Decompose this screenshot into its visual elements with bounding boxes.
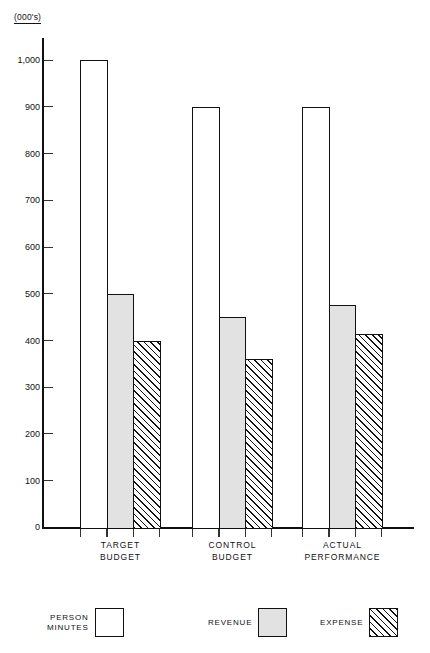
legend-label: EXPENSE bbox=[320, 618, 363, 628]
legend-item-revenue: REVENUE bbox=[208, 608, 287, 637]
x-axis-tick bbox=[355, 529, 356, 537]
legend-item-person-minutes: PERSON MINUTES bbox=[47, 608, 124, 637]
y-axis-tick bbox=[44, 60, 53, 61]
legend-swatch-expense bbox=[369, 608, 398, 637]
x-axis-tick bbox=[218, 529, 219, 537]
y-axis-tick-label: 900 bbox=[6, 102, 40, 112]
y-axis-tick bbox=[44, 106, 53, 107]
y-axis-tick bbox=[44, 387, 53, 388]
bar-expense bbox=[245, 359, 273, 529]
x-axis-tick bbox=[245, 529, 246, 537]
x-axis-tick bbox=[192, 529, 193, 537]
bar-revenue bbox=[328, 305, 356, 529]
y-axis-tick-label: 400 bbox=[6, 336, 40, 346]
y-axis-tick bbox=[44, 200, 53, 201]
y-axis-tick bbox=[44, 293, 53, 294]
bar-chart: (000's) 01002003004005006007008009001,00… bbox=[0, 0, 430, 653]
y-axis-line bbox=[42, 38, 44, 529]
x-axis-tick bbox=[80, 529, 81, 537]
y-axis-tick-label: 800 bbox=[6, 149, 40, 159]
bar-revenue bbox=[218, 317, 246, 529]
y-axis-tick-label: 500 bbox=[6, 289, 40, 299]
y-axis-tick-label: 600 bbox=[6, 242, 40, 252]
legend-swatch-revenue bbox=[258, 608, 287, 637]
bar-revenue bbox=[106, 294, 134, 529]
y-axis-tick bbox=[44, 247, 53, 248]
x-axis-tick bbox=[381, 529, 382, 537]
x-axis-tick bbox=[159, 529, 160, 537]
y-axis-tick bbox=[44, 153, 53, 154]
bar-expense bbox=[133, 341, 161, 529]
y-axis-tick-label: 200 bbox=[6, 429, 40, 439]
bar-expense bbox=[355, 334, 383, 529]
legend-item-expense: EXPENSE bbox=[320, 608, 398, 637]
y-axis-tick-label: 1,000 bbox=[6, 55, 40, 65]
y-axis-tick-label: 0 bbox=[6, 522, 40, 532]
category-label: CONTROL BUDGET bbox=[172, 540, 292, 563]
x-axis-tick bbox=[271, 529, 272, 537]
y-axis-tick-label: 700 bbox=[6, 195, 40, 205]
x-axis-tick bbox=[106, 529, 107, 537]
y-axis-tick-label: 300 bbox=[6, 382, 40, 392]
bar-person-minutes bbox=[302, 107, 330, 529]
x-axis-tick bbox=[302, 529, 303, 537]
y-axis-tick bbox=[44, 433, 53, 434]
x-axis-tick bbox=[133, 529, 134, 537]
y-axis-tick bbox=[44, 480, 53, 481]
y-axis-tick-label: 100 bbox=[6, 476, 40, 486]
y-axis-units-label: (000's) bbox=[14, 12, 41, 24]
x-axis-tick bbox=[328, 529, 329, 537]
y-axis-tick bbox=[44, 340, 53, 341]
bar-person-minutes bbox=[192, 107, 220, 529]
legend-label: REVENUE bbox=[208, 618, 252, 628]
chart-legend: PERSON MINUTESREVENUEEXPENSE bbox=[0, 600, 430, 642]
category-label: ACTUAL PERFORMANCE bbox=[282, 540, 402, 563]
legend-swatch-person-minutes bbox=[95, 608, 124, 637]
legend-label: PERSON MINUTES bbox=[47, 613, 89, 633]
category-label: TARGET BUDGET bbox=[60, 540, 180, 563]
bar-person-minutes bbox=[80, 60, 108, 529]
